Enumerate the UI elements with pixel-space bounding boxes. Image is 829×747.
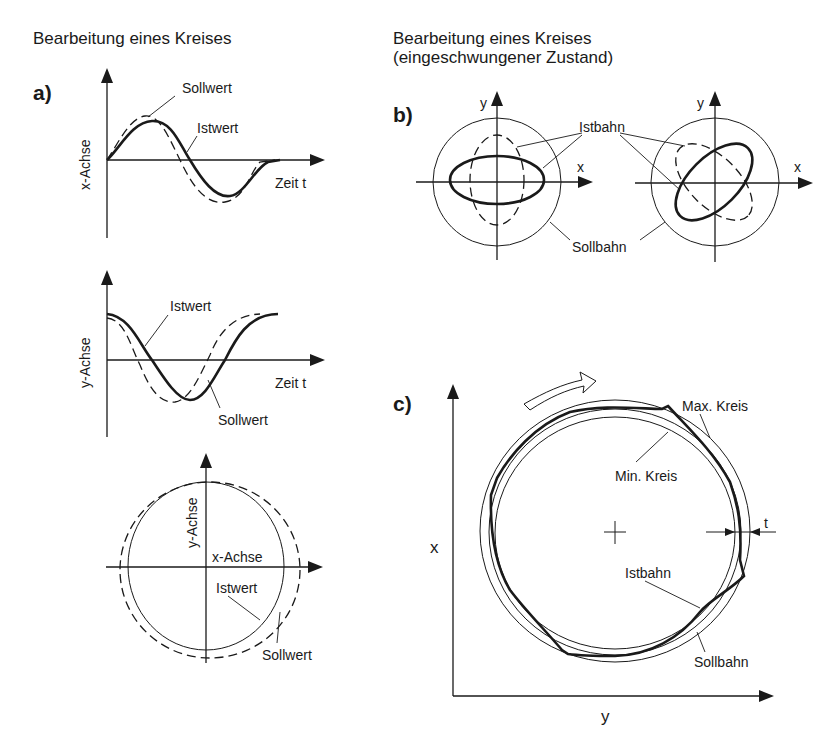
- leader-line: [645, 581, 700, 608]
- axis-arrow-icon: [578, 176, 593, 188]
- axis-arrow-icon: [101, 68, 113, 83]
- leader-line: [550, 222, 570, 240]
- leader-line: [700, 414, 710, 438]
- leader-line: [640, 222, 665, 240]
- actual-ellipse-alt: [662, 130, 765, 233]
- figure-canvas: Bearbeitung eines Kreises a) Sollwert Is…: [0, 0, 829, 747]
- leader-line: [208, 380, 220, 408]
- dimension-arrow-icon: [750, 528, 760, 536]
- panel-b-label: b): [393, 103, 413, 126]
- panel-c-diagram: x y t Max. Kreis Min. Kreis Istbahn Soll…: [430, 372, 776, 726]
- leader-line: [228, 596, 260, 620]
- x-axis-label: x-Achse: [77, 139, 93, 190]
- time-axis-label: Zeit t: [275, 175, 306, 191]
- y-axis-time-chart: Istwert Sollwert Zeit t y-Achse: [77, 270, 325, 437]
- axis-arrow-icon: [310, 354, 325, 366]
- time-axis-label: Zeit t: [275, 375, 306, 391]
- circle-x-axis-label: x-Achse: [212, 549, 263, 565]
- axis-arrow-icon: [798, 177, 813, 189]
- actual-label: Istwert: [216, 580, 257, 596]
- axis-arrow-icon: [310, 154, 325, 166]
- actual-path-label: Istbahn: [579, 119, 625, 135]
- actual-ellipse: [662, 130, 765, 233]
- actual-path: [491, 406, 744, 656]
- max-circle-label: Max. Kreis: [682, 398, 748, 414]
- actual-curve: [107, 314, 278, 400]
- panel-a-label: a): [33, 81, 52, 104]
- rotation-arrow-icon: [524, 372, 596, 410]
- setpoint-circle: [120, 482, 300, 658]
- axis-arrow-icon: [447, 384, 459, 399]
- panel-c-label: c): [393, 392, 412, 415]
- target-path-label: Sollbahn: [694, 654, 749, 670]
- x-axis-time-chart: Sollwert Istwert Zeit t x-Achse: [77, 68, 325, 238]
- target-path-label: Sollbahn: [572, 239, 627, 255]
- y-label: y: [697, 95, 704, 111]
- x-label: x: [794, 159, 801, 175]
- setpoint-label: Sollwert: [262, 647, 312, 663]
- y-label: y: [480, 95, 487, 111]
- actual-label: Istwert: [170, 298, 211, 314]
- x-axis-label: x: [430, 538, 439, 557]
- axis-arrow-icon: [308, 561, 323, 573]
- setpoint-label: Sollwert: [218, 412, 268, 428]
- tolerance-label: t: [764, 515, 768, 531]
- setpoint-label: Sollwert: [182, 80, 232, 96]
- axis-arrow-icon: [101, 270, 113, 285]
- min-circle-label: Min. Kreis: [615, 468, 677, 484]
- actual-label: Istwert: [197, 120, 238, 136]
- leader-line: [636, 432, 668, 462]
- leader-line: [187, 136, 197, 152]
- panel-b-right-diagram: y x: [635, 91, 813, 262]
- leader-line: [148, 96, 175, 117]
- actual-path-label: Istbahn: [625, 565, 671, 581]
- axis-arrow-icon: [759, 690, 774, 702]
- right-title-line1: Bearbeitung eines Kreises: [393, 29, 591, 48]
- axis-arrow-icon: [491, 91, 503, 106]
- right-title-line2: (eingeschwungener Zustand): [393, 48, 613, 67]
- axis-arrow-icon: [709, 91, 721, 106]
- axis-arrow-icon: [200, 453, 212, 468]
- dimension-arrow-icon: [725, 528, 735, 536]
- panel-b-left-diagram: y x: [416, 91, 593, 260]
- setpoint-curve: [107, 116, 275, 202]
- x-label: x: [577, 159, 584, 175]
- left-title: Bearbeitung eines Kreises: [33, 29, 231, 48]
- circle-y-axis-label: y-Achse: [184, 497, 200, 548]
- leader-line: [145, 315, 168, 346]
- xy-circle-chart: y-Achse x-Achse Istwert Sollwert: [106, 453, 323, 663]
- y-axis-label: y: [601, 707, 610, 726]
- leader-line: [697, 632, 705, 652]
- y-axis-label: y-Achse: [77, 337, 93, 388]
